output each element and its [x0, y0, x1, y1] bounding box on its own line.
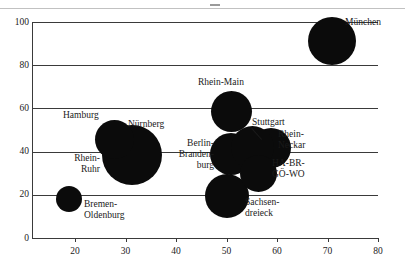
label-muenchen: München: [345, 17, 381, 28]
label-sachsendreieck-line1: Sachsen-: [245, 197, 279, 208]
label-rhein-neckar-line1: Rhein-: [278, 129, 304, 140]
y-tick-label-80: 80: [3, 61, 29, 71]
x-tick-label-50: 50: [212, 246, 242, 256]
x-tick-60: [277, 238, 278, 242]
x-tick-label-70: 70: [313, 246, 343, 256]
scan-artifact-mark: [210, 4, 220, 6]
label-rhein-ruhr-line2: Ruhr: [52, 164, 100, 175]
label-ha-br-goe-wo-line2: GÖ-WO: [272, 169, 305, 180]
x-tick-30: [126, 238, 127, 242]
x-tick-40: [176, 238, 177, 242]
label-rhein-neckar-line2: Neckar: [278, 140, 305, 151]
bubble-bremen-oldenburg: [56, 186, 82, 212]
y-tick-label-60: 60: [3, 104, 29, 114]
label-ha-br-goe-wo-line1: HA-BR-: [272, 158, 305, 169]
label-rhein-main: Rhein-Main: [198, 77, 244, 88]
label-bremen-line2: Oldenburg: [84, 210, 124, 221]
label-bremen-line1: Bremen-: [84, 199, 117, 210]
x-tick-label-30: 30: [111, 246, 141, 256]
label-berlin-line2: Branden-: [168, 149, 214, 160]
x-axis-line: [32, 238, 378, 239]
label-berlin-line3: burg: [168, 160, 214, 171]
y-tick-label-100: 100: [3, 18, 29, 28]
label-rhein-ruhr-line1: Rhein-: [52, 153, 100, 164]
y-tick-label-40: 40: [3, 147, 29, 157]
label-hamburg: Hamburg: [63, 110, 99, 121]
x-tick-label-80: 80: [363, 246, 393, 256]
x-tick-label-40: 40: [161, 246, 191, 256]
gridline-80: [32, 65, 378, 66]
label-stuttgart: Stuttgart: [252, 117, 285, 128]
x-tick-label-60: 60: [262, 246, 292, 256]
bubble-chart: 100 80 60 40 20 0 20 30 40 50 60 70 80 M…: [0, 0, 405, 274]
x-tick-50: [227, 238, 228, 242]
x-tick-70: [328, 238, 329, 242]
label-nuernberg: Nürnberg: [128, 119, 164, 130]
scan-artifact-line: [0, 8, 405, 9]
x-tick-label-20: 20: [60, 246, 90, 256]
y-axis-line: [32, 22, 33, 238]
x-tick-20: [75, 238, 76, 242]
y-tick-label-0: 0: [3, 234, 29, 244]
label-sachsendreieck-line2: dreieck: [245, 208, 273, 219]
y-tick-label-20: 20: [3, 190, 29, 200]
x-tick-80: [378, 238, 379, 242]
label-berlin-line1: Berlin-: [168, 138, 214, 149]
